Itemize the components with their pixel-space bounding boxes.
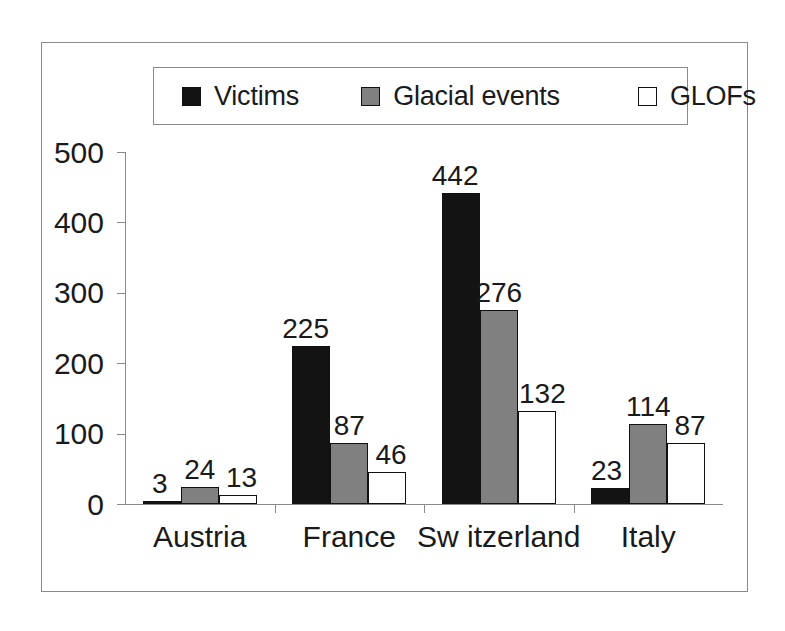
y-axis-line	[125, 152, 126, 504]
x-tick	[424, 504, 425, 513]
bar-value-label: 13	[226, 464, 257, 492]
bar: 24	[181, 487, 219, 504]
bar-value-label: 114	[626, 393, 671, 421]
bar-value-label: 3	[152, 470, 168, 498]
bar-group: 2258746France	[292, 152, 406, 504]
x-axis-category-label: France	[303, 522, 396, 552]
x-tick	[574, 504, 575, 513]
bar-group: 2311487Italy	[591, 152, 705, 504]
legend-item-victims: Victims	[182, 83, 299, 110]
bar-value-label: 46	[375, 441, 406, 469]
bar: 225	[292, 346, 330, 504]
legend-label-glofs: GLOFs	[670, 83, 756, 110]
chart-legend: Victims Glacial events GLOFs	[153, 67, 688, 125]
legend-label-victims: Victims	[214, 83, 299, 110]
y-tick-label: 0	[87, 490, 104, 520]
y-tick: 200	[117, 363, 125, 364]
y-tick-label: 300	[54, 278, 104, 308]
y-tick-label: 200	[54, 349, 104, 379]
bar: 276	[480, 310, 518, 504]
x-tick	[275, 504, 276, 513]
y-tick: 100	[117, 434, 125, 435]
y-tick-label: 100	[54, 419, 104, 449]
bar-value-label: 132	[519, 380, 566, 408]
y-tick-label: 400	[54, 208, 104, 238]
bar-value-label: 23	[591, 457, 622, 485]
legend-item-glacial-events: Glacial events	[361, 83, 560, 110]
bar-value-label: 442	[432, 162, 479, 190]
bar-chart: Victims Glacial events GLOFs 01002003004…	[0, 0, 785, 631]
bar-value-label: 24	[184, 456, 215, 484]
bar: 87	[330, 443, 368, 504]
bar-group: 442276132Sw itzerland	[442, 152, 556, 504]
legend-swatch-victims	[182, 87, 201, 106]
bar-value-label: 87	[674, 412, 705, 440]
bar: 442	[442, 193, 480, 504]
y-tick: 400	[117, 222, 125, 223]
legend-swatch-glacial-events	[361, 87, 380, 106]
bar-value-label: 87	[334, 412, 365, 440]
y-tick-label: 500	[54, 138, 104, 168]
bar-value-label: 225	[282, 315, 329, 343]
y-tick: 500	[117, 152, 125, 153]
x-axis-category-label: Italy	[621, 522, 676, 552]
bar: 87	[667, 443, 705, 504]
legend-swatch-glofs	[638, 87, 657, 106]
bar: 23	[591, 488, 629, 504]
x-axis-category-label: Sw itzerland	[417, 522, 580, 552]
bar: 114	[629, 424, 667, 504]
bar: 13	[219, 495, 257, 504]
legend-label-glacial-events: Glacial events	[393, 83, 560, 110]
plot-area: 0100200300400500 32413Austria2258746Fran…	[125, 152, 723, 504]
x-axis-category-label: Austria	[153, 522, 246, 552]
bar-group: 32413Austria	[143, 152, 257, 504]
bar: 46	[368, 472, 406, 504]
legend-item-glofs: GLOFs	[638, 83, 756, 110]
y-tick: 300	[117, 293, 125, 294]
bar: 132	[518, 411, 556, 504]
y-tick: 0	[117, 504, 125, 505]
bar: 3	[143, 501, 181, 504]
bar-value-label: 276	[475, 279, 522, 307]
